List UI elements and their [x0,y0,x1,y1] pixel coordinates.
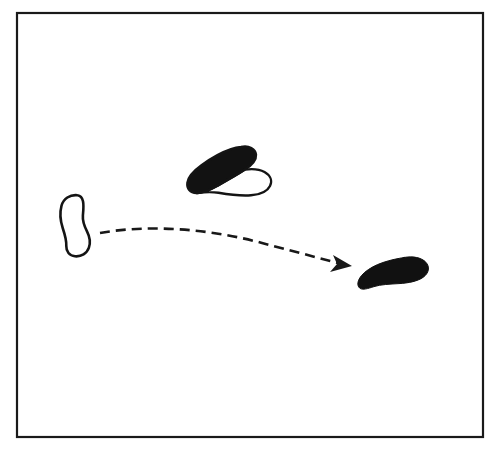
figure-canvas [0,0,501,456]
canvas-background [0,0,501,456]
figure-container: Line drawing: an open outlined blob at l… [0,0,501,456]
